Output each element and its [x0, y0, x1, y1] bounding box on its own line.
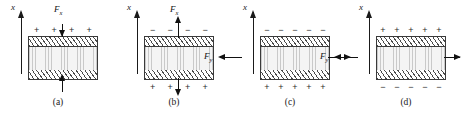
panel-a: x + + + + Fx (a): [0, 0, 116, 118]
x-axis-label: x: [11, 3, 15, 12]
piezo-core: [145, 46, 213, 72]
charge-sign: −: [408, 82, 413, 92]
force-subscript: y: [210, 56, 213, 63]
x-axis-line: [137, 12, 138, 74]
x-axis-line: [21, 12, 22, 74]
force-arrowhead-left: [218, 54, 225, 60]
panel-b: x − − − − + + + + Fx (b): [116, 0, 232, 118]
charge-sign: −: [185, 25, 190, 35]
top-electrode: [261, 37, 329, 46]
force-label-fy-left: Fy: [204, 52, 212, 64]
x-axis-line: [253, 12, 254, 74]
charge-sign: −: [380, 82, 385, 92]
force-arrowhead-up: [175, 16, 181, 23]
charge-sign: +: [278, 82, 283, 92]
charge-sign: +: [185, 82, 190, 92]
charge-sign: +: [436, 25, 441, 35]
charge-sign: +: [320, 82, 325, 92]
panel-c-top-charges: − − − − −: [260, 24, 330, 35]
piezoelectric-force-polarity-figure: x + + + + Fx (a) x − − − −: [0, 0, 467, 118]
charge-sign: +: [264, 82, 269, 92]
force-arrowhead-down: [175, 89, 181, 96]
force-subscript: x: [176, 9, 179, 16]
force-arrowhead-up: [59, 74, 65, 81]
charge-sign: −: [264, 25, 269, 35]
charge-sign: +: [150, 82, 155, 92]
x-axis-arrowhead: [134, 10, 140, 18]
charge-sign: +: [408, 25, 413, 35]
charge-sign: +: [52, 25, 57, 35]
x-axis-label: x: [359, 3, 363, 12]
x-axis-line: [369, 12, 370, 74]
charge-sign: +: [422, 25, 427, 35]
charge-sign: +: [380, 25, 385, 35]
force-arrow-shaft-left: [340, 57, 358, 58]
panel-caption-b: (b): [116, 97, 232, 107]
charge-sign: −: [292, 25, 297, 35]
panel-b-top-charges: − − − −: [144, 24, 214, 35]
charge-sign: −: [306, 25, 311, 35]
panel-caption-a: (a): [0, 97, 116, 107]
panel-d-bottom-charges: − − − − −: [376, 81, 446, 92]
panel-caption-d: (d): [348, 97, 464, 107]
force-label-fx: Fx: [170, 5, 178, 17]
force-arrow-shaft-left: [224, 57, 242, 58]
piezo-core: [377, 46, 445, 72]
charge-sign: −: [436, 82, 441, 92]
charge-sign: +: [203, 82, 208, 92]
charge-sign: −: [278, 25, 283, 35]
force-label-fx: Fx: [54, 5, 62, 17]
top-electrode: [377, 37, 445, 46]
x-axis-label: x: [243, 3, 247, 12]
charge-sign: +: [292, 82, 297, 92]
force-subscript: x: [60, 9, 63, 16]
force-arrowhead-down: [59, 30, 65, 37]
bottom-electrode: [261, 70, 329, 79]
piezo-block: [376, 36, 446, 80]
force-label-fy-left: Fy: [320, 52, 328, 64]
piezo-core: [29, 46, 97, 72]
x-axis-arrowhead: [18, 10, 24, 18]
top-electrode: [145, 37, 213, 46]
x-axis-arrowhead: [366, 10, 372, 18]
charge-sign: −: [320, 25, 325, 35]
charge-sign: +: [69, 25, 74, 35]
force-subscript: y: [326, 56, 329, 63]
force-arrowhead-left: [334, 54, 341, 60]
charge-sign: −: [168, 25, 173, 35]
bottom-electrode: [377, 70, 445, 79]
charge-sign: −: [422, 82, 427, 92]
charge-sign: −: [150, 25, 155, 35]
panel-c-bottom-charges: + + + + +: [260, 81, 330, 92]
panel-d-top-charges: + + + + +: [376, 24, 446, 35]
charge-sign: +: [306, 82, 311, 92]
bottom-electrode: [145, 70, 213, 79]
top-electrode: [29, 37, 97, 46]
piezo-core: [261, 46, 329, 72]
panel-d: x + + + + + − − − − − Fy (d): [348, 0, 464, 118]
panel-c: x − − − − − + + + + + Fy (c): [232, 0, 348, 118]
x-axis-label: x: [127, 3, 131, 12]
x-axis-arrowhead: [250, 10, 256, 18]
force-arrow-shaft-top: [178, 22, 179, 38]
charge-sign: +: [87, 25, 92, 35]
charge-sign: +: [394, 25, 399, 35]
charge-sign: +: [34, 25, 39, 35]
panel-caption-c: (c): [232, 97, 348, 107]
charge-sign: −: [203, 25, 208, 35]
charge-sign: −: [394, 82, 399, 92]
force-arrowhead-right: [454, 54, 461, 60]
charge-sign: +: [168, 82, 173, 92]
